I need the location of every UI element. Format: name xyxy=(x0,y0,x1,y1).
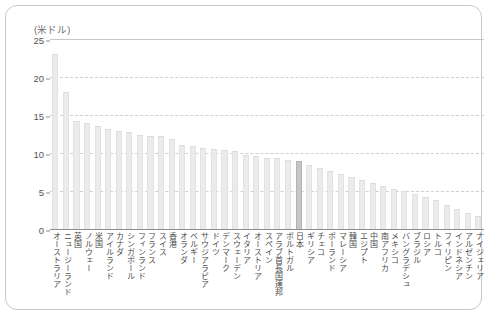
bar-column xyxy=(92,39,103,229)
gridline-0: 0 xyxy=(50,229,484,230)
x-axis-label-cell: フィリピン xyxy=(441,232,452,316)
x-axis-label-36: トルコ xyxy=(432,232,440,316)
bar-27 xyxy=(338,174,344,229)
bar-column xyxy=(473,39,484,229)
x-axis-label-10: スイス xyxy=(157,232,165,316)
x-axis-label-cell: トルコ xyxy=(431,232,442,316)
bar-35 xyxy=(422,197,428,229)
x-axis-label-11: 香港 xyxy=(168,232,176,316)
bar-28 xyxy=(348,177,354,229)
x-axis-label-cell: デンマーク xyxy=(219,232,230,316)
x-axis-label-14: サウジアラビア xyxy=(199,232,207,316)
x-axis-label-32: メキシコ xyxy=(390,232,398,316)
bar-column xyxy=(251,39,262,229)
chart-frame: (米ドル) 0510152025 オーストラリアニュージーランド英国ノルウェー米… xyxy=(5,5,482,310)
x-axis-label-cell: バングラデシュ xyxy=(399,232,410,316)
bar-column xyxy=(452,39,463,229)
x-axis-label-38: インドネシア xyxy=(453,232,461,316)
bar-11 xyxy=(169,139,175,229)
x-axis-label-29: エジプト xyxy=(358,232,366,316)
x-axis-label-7: シンガポール xyxy=(125,232,133,316)
x-axis-label-30: 中国 xyxy=(368,232,376,316)
bar-26 xyxy=(327,171,333,229)
y-tick-label-20: 20 xyxy=(33,73,44,84)
x-axis-label-25: チェコ xyxy=(316,232,324,316)
x-axis-label-cell: シンガポール xyxy=(124,232,135,316)
bar-column xyxy=(357,39,368,229)
x-axis-label-cell: ロシア xyxy=(420,232,431,316)
bar-column xyxy=(314,39,325,229)
x-axis-label-cell: オランダ xyxy=(177,232,188,316)
x-axis-label-28: 韓国 xyxy=(347,232,355,316)
x-axis-label-cell: 南アフリカ xyxy=(378,232,389,316)
bar-16 xyxy=(221,150,227,229)
x-axis-label-17: スウェーデン xyxy=(231,232,239,316)
bar-19 xyxy=(253,156,259,229)
bar-column xyxy=(124,39,135,229)
x-axis-label-22: ポルトガル xyxy=(284,232,292,316)
bar-column xyxy=(177,39,188,229)
x-axis-label-19: オーストリア xyxy=(252,232,260,316)
bar-column xyxy=(399,39,410,229)
bar-column xyxy=(166,39,177,229)
bar-15 xyxy=(211,149,217,229)
x-axis-label-21: アラブ首長国連邦 xyxy=(273,232,281,316)
x-axis-label-5: アイルランド xyxy=(104,232,112,316)
y-tick-label-15: 15 xyxy=(33,111,44,122)
x-axis-label-35: ロシア xyxy=(421,232,429,316)
bar-column xyxy=(103,39,114,229)
bar-column xyxy=(304,39,315,229)
bar-34 xyxy=(412,194,418,229)
bar-6 xyxy=(116,131,122,229)
bar-column xyxy=(410,39,421,229)
bar-column xyxy=(367,39,378,229)
x-axis-label-cell: 英国 xyxy=(71,232,82,316)
x-axis-label-cell: スウェーデン xyxy=(230,232,241,316)
bar-2 xyxy=(73,121,79,229)
x-axis-label-cell: フランス xyxy=(145,232,156,316)
x-axis-label-cell: 米国 xyxy=(92,232,103,316)
bar-column xyxy=(389,39,400,229)
x-axis-label-8: フィンランド xyxy=(136,232,144,316)
bar-column xyxy=(135,39,146,229)
x-axis-label-13: ベルギー xyxy=(189,232,197,316)
x-axis-label-cell: アラブ首長国連邦 xyxy=(272,232,283,316)
x-axis-label-3: ノルウェー xyxy=(83,232,91,316)
bar-column xyxy=(198,39,209,229)
x-axis-label-16: デンマーク xyxy=(220,232,228,316)
plot-area: 0510152025 xyxy=(50,39,484,229)
bar-column xyxy=(209,39,220,229)
x-axis-label-24: ギリシア xyxy=(305,232,313,316)
x-axis-label-40: ナイジェリア xyxy=(474,232,482,316)
bar-column xyxy=(463,39,474,229)
x-axis-label-cell: ギリシア xyxy=(304,232,315,316)
x-axis-label-cell: スペイン xyxy=(262,232,273,316)
bar-22 xyxy=(285,160,291,229)
bar-8 xyxy=(137,135,143,229)
bar-29 xyxy=(359,180,365,229)
bar-column xyxy=(230,39,241,229)
bar-column xyxy=(61,39,72,229)
x-axis-label-cell: エジプト xyxy=(357,232,368,316)
bar-31 xyxy=(380,186,386,229)
x-axis-label-cell: オーストラリア xyxy=(50,232,61,316)
bar-column xyxy=(336,39,347,229)
bar-38 xyxy=(454,209,460,229)
x-axis-label-cell: イタリア xyxy=(240,232,251,316)
x-axis-label-37: フィリピン xyxy=(443,232,451,316)
bar-column xyxy=(420,39,431,229)
bar-column xyxy=(145,39,156,229)
x-axis-label-cell: 中国 xyxy=(367,232,378,316)
y-tick-label-0: 0 xyxy=(39,225,44,236)
x-axis-label-cell: ナイジェリア xyxy=(473,232,484,316)
x-axis-label-12: オランダ xyxy=(178,232,186,316)
x-axis-label-cell: メキシコ xyxy=(389,232,400,316)
bar-column xyxy=(272,39,283,229)
bar-7 xyxy=(126,132,132,229)
bar-12 xyxy=(179,145,185,229)
bar-column xyxy=(82,39,93,229)
bar-32 xyxy=(391,189,397,229)
x-axis-label-cell: ベルギー xyxy=(188,232,199,316)
x-axis-label-cell: ノルウェー xyxy=(82,232,93,316)
bar-column xyxy=(240,39,251,229)
